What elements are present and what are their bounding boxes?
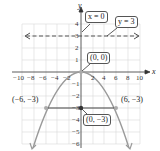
x-tick: 4: [102, 75, 106, 82]
x-tick: −4: [51, 75, 58, 82]
y-tick: −2: [72, 93, 79, 100]
vertex-label-leader: [82, 64, 90, 71]
x-tick: 6: [114, 75, 118, 82]
axis-label-leader: [82, 24, 90, 32]
y-tick: 3: [75, 33, 79, 40]
y-axis-label: y: [78, 2, 82, 10]
x-tick: 2: [91, 75, 95, 82]
right-endpoint-label: (6, −3): [121, 96, 143, 104]
left-endpoint-point: [44, 106, 48, 110]
y-tick: −5: [72, 129, 79, 136]
focus-label: (0, −3): [83, 114, 111, 126]
y-tick: 2: [75, 45, 79, 52]
right-endpoint-point: [114, 106, 118, 110]
y-tick: 4: [75, 21, 79, 28]
left-endpoint-label: (−6, −3): [12, 96, 38, 104]
x-tick: 10: [136, 75, 143, 82]
y-tick: −3: [72, 105, 79, 112]
x-tick: −6: [39, 75, 46, 82]
directrix-label: y = 3: [115, 16, 138, 28]
y-tick: −1: [72, 81, 79, 88]
y-tick: −4: [72, 117, 79, 124]
x-tick: −10: [13, 75, 24, 82]
x-tick: 8: [126, 75, 130, 82]
y-tick: 1: [75, 57, 79, 64]
vertex-label: (0, 0): [87, 52, 110, 64]
directrix-label-leader: [107, 28, 117, 36]
x-tick: −8: [27, 75, 34, 82]
y-tick: −6: [72, 141, 79, 148]
x-tick: −2: [63, 75, 70, 82]
x-axis-label: x: [152, 68, 156, 76]
axis-of-symmetry-label: x = 0: [85, 11, 108, 23]
